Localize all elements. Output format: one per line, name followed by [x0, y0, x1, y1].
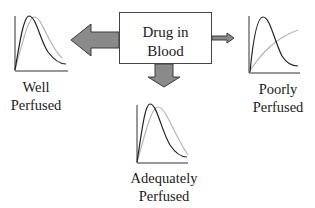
arrow-to-adequately-perfused — [148, 64, 180, 87]
curve-dark — [250, 17, 298, 72]
adequately-perfused-label-line2: Perfused — [139, 187, 190, 205]
arrow-to-well-perfused — [71, 24, 119, 56]
poorly-perfused-label-line2: Perfused — [253, 98, 304, 116]
poorly-perfused-label-line1: Poorly — [259, 80, 298, 98]
curve-light — [15, 17, 62, 70]
plot-well-perfused — [15, 16, 68, 71]
well-perfused-label-line1: Well — [22, 78, 49, 96]
plot-adequately-perfused — [137, 104, 188, 163]
box-label-line1: Drug in — [120, 23, 211, 41]
box-label-line2: Blood — [120, 42, 211, 60]
plot-poorly-perfused — [249, 16, 300, 73]
adequately-perfused-label-line1: Adequately — [131, 169, 198, 187]
arrow-to-poorly-perfused — [212, 33, 234, 43]
drug-in-blood-box: Drug in Blood — [119, 12, 212, 64]
well-perfused-label-line2: Perfused — [11, 96, 62, 114]
curve-light — [249, 30, 298, 72]
curve-dark — [137, 104, 187, 162]
